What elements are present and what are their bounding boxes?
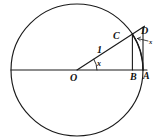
label-point-d: D [141, 26, 148, 36]
label-point-a: A [143, 71, 150, 81]
label-point-o: O [70, 73, 77, 83]
label-angle-x: x [97, 60, 101, 68]
geometry-diagram: O A B C D 1 x x [0, 0, 156, 139]
label-radius-value: 1 [97, 45, 102, 55]
ray-od-line [77, 26, 145, 70]
label-point-c: C [113, 31, 120, 41]
label-arc-marker: x [149, 39, 152, 46]
diagram-canvas [0, 0, 156, 139]
label-point-b: B [130, 72, 137, 82]
